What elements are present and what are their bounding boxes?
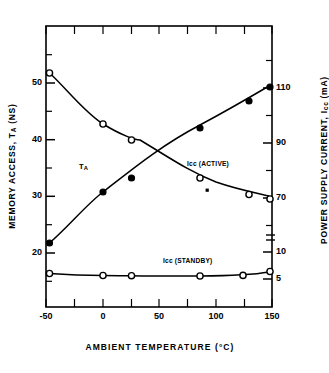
x-tick-label-1: 0 xyxy=(93,311,113,321)
x-tick-label-0: -50 xyxy=(36,311,56,321)
axis-break-symbol xyxy=(266,235,275,240)
y-left-tick-label-20: 20 xyxy=(24,247,42,257)
y-left-tick-label-50: 50 xyxy=(24,77,42,87)
y-right-tick-label-70: 70 xyxy=(276,192,286,202)
y-axis-left-ticks xyxy=(46,55,55,282)
annotation-icc-standby: Icc (STANDBY) xyxy=(163,257,212,264)
y-right-tick-label-90: 90 xyxy=(276,137,286,147)
y-axis-right-title: POWER SUPPLY CURRENT, Icc (mA) xyxy=(319,50,329,270)
series-icc-standby-markers xyxy=(46,268,273,279)
x-axis-ticks-top xyxy=(46,26,272,34)
y-right-tick-label-5: 5 xyxy=(276,273,281,283)
y-axis-left-title: MEMORY ACCESS, TA (NS) xyxy=(7,61,17,271)
annotation-icc-active: Icc (ACTIVE) xyxy=(187,160,229,167)
x-axis-title: AMBIENT TEMPERATURE (°C) xyxy=(0,342,320,352)
series-icc-standby xyxy=(46,268,273,279)
y-left-tick-label-40: 40 xyxy=(24,134,42,144)
annotation-ta: TA xyxy=(79,162,88,171)
y-axis-right-ticks xyxy=(263,61,272,280)
x-axis-ticks-bottom xyxy=(46,299,272,307)
y-left-tick-label-30: 30 xyxy=(24,190,42,200)
y-right-tick-label-110: 110 xyxy=(276,82,291,92)
x-tick-label-2: 50 xyxy=(149,311,169,321)
x-tick-label-4: 150 xyxy=(261,311,283,321)
stray-data-point xyxy=(206,189,209,192)
series-ta-markers xyxy=(46,70,273,202)
x-tick-label-3: 100 xyxy=(205,311,227,321)
series-ta xyxy=(46,70,273,202)
y-right-tick-label-10: 10 xyxy=(276,246,286,256)
